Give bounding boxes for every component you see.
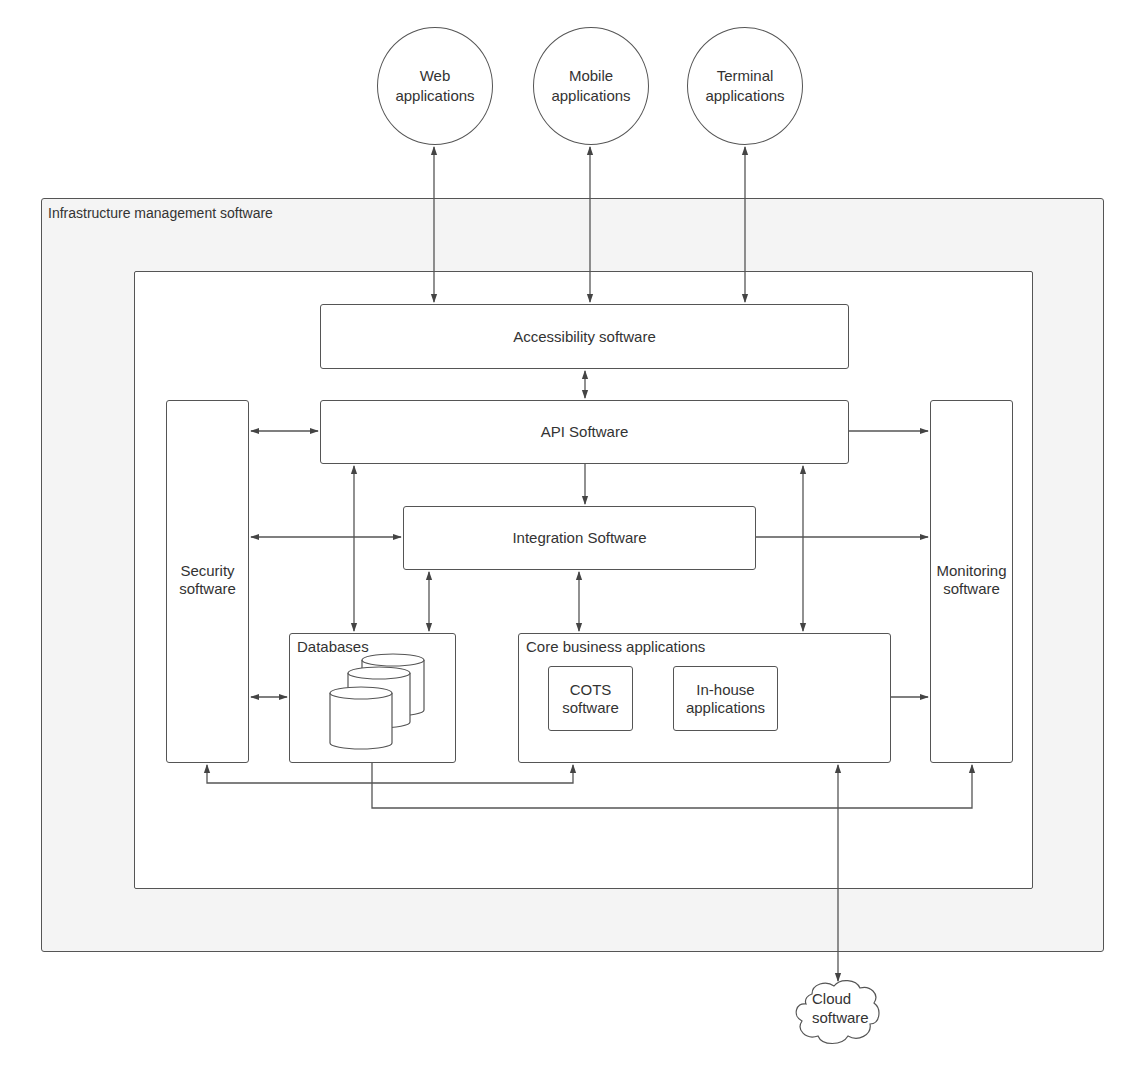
web-applications-node: Web applications <box>377 27 493 145</box>
in-house-applications-label: In-house applications <box>686 681 765 717</box>
core-business-applications-label: Core business applications <box>526 638 705 656</box>
terminal-applications-label: Terminal applications <box>705 66 784 106</box>
security-software-box: Security software <box>166 400 249 763</box>
architecture-diagram: Web applications Mobile applications Ter… <box>0 0 1137 1084</box>
terminal-applications-node: Terminal applications <box>687 27 803 145</box>
integration-software-box: Integration Software <box>403 506 756 570</box>
in-house-applications-box: In-house applications <box>673 666 778 731</box>
monitoring-software-box: Monitoring software <box>930 400 1013 763</box>
accessibility-software-box: Accessibility software <box>320 304 849 369</box>
databases-box: Databases <box>289 633 456 763</box>
mobile-applications-node: Mobile applications <box>533 27 649 145</box>
web-applications-label: Web applications <box>395 66 474 106</box>
integration-software-label: Integration Software <box>512 529 646 547</box>
mobile-applications-label: Mobile applications <box>551 66 630 106</box>
security-software-label: Security software <box>179 562 236 598</box>
cloud-software-node: Cloud software <box>812 989 869 1027</box>
infrastructure-management-title: Infrastructure management software <box>48 205 273 221</box>
cloud-software-label: Cloud software <box>812 990 869 1026</box>
cots-software-box: COTS software <box>548 666 633 731</box>
api-software-label: API Software <box>541 423 629 441</box>
api-software-box: API Software <box>320 400 849 464</box>
databases-label: Databases <box>297 638 369 656</box>
monitoring-software-label: Monitoring software <box>936 562 1006 598</box>
accessibility-software-label: Accessibility software <box>513 328 656 346</box>
cots-software-label: COTS software <box>562 681 619 717</box>
